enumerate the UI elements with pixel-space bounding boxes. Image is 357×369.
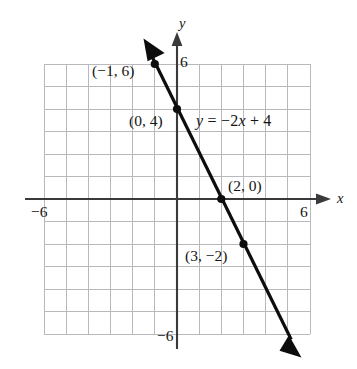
y-tick-label-neg6: −6 <box>157 328 174 344</box>
y-tick-label-6: 6 <box>180 54 188 70</box>
y-axis <box>172 32 183 349</box>
y-axis-arrow-icon <box>172 32 183 46</box>
equation-equals: = <box>208 112 217 129</box>
coordinate-plane-figure <box>0 0 357 369</box>
point-dot-neg1-6 <box>151 60 159 68</box>
equation-label: y = −2x + 4 <box>196 113 272 129</box>
point-dot-2-0 <box>217 195 225 203</box>
equation-intercept: 4 <box>263 112 271 129</box>
x-axis-arrow-icon <box>316 194 331 205</box>
line-arrow-up-icon <box>144 39 165 62</box>
point-label-0-4: (0, 4) <box>129 113 163 129</box>
equation-plus: + <box>250 112 259 129</box>
point-dot-0-4 <box>173 105 181 113</box>
x-axis-label: x <box>337 191 343 206</box>
x-tick-label-6: 6 <box>300 204 308 220</box>
point-label-2-0: (2, 0) <box>228 178 262 194</box>
y-axis-label: y <box>179 16 185 31</box>
graph-screenshot: y x 6 −6 −6 6 (−1, 6) (0, 4) (2, 0) (3, … <box>0 0 357 369</box>
equation-x: x <box>238 112 245 129</box>
point-label-3-neg2: (3, −2) <box>185 248 227 264</box>
x-tick-label-neg6: −6 <box>31 204 48 220</box>
equation-minus: − <box>221 112 230 129</box>
point-dot-3-neg2 <box>239 240 247 248</box>
line-arrow-down-icon <box>280 335 302 357</box>
point-label-neg1-6: (−1, 6) <box>92 63 134 79</box>
